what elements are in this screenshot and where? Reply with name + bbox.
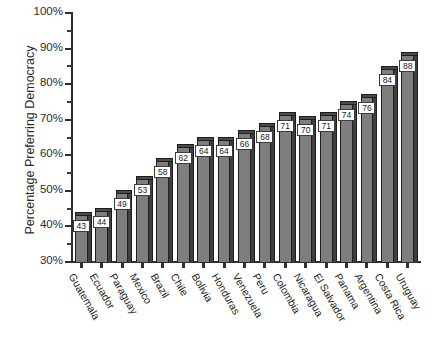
bar-top-cap <box>238 130 255 134</box>
bar-front-face <box>177 148 190 262</box>
x-tick <box>304 263 307 268</box>
bar-top-cap <box>259 123 276 127</box>
bar-value-label: 74 <box>338 109 355 121</box>
bar-value-label: 44 <box>93 216 110 228</box>
x-tick <box>284 263 287 268</box>
bar-top-cap <box>116 190 133 194</box>
bar-top-cap <box>177 144 194 148</box>
y-tick-label: 30% <box>7 254 63 266</box>
bar-side-face <box>312 116 316 262</box>
bar-side-face <box>394 66 398 262</box>
y-tick-major <box>65 12 72 14</box>
x-tick <box>80 263 83 268</box>
y-tick-major <box>65 261 72 263</box>
x-tick <box>223 263 226 268</box>
bar-top-cap <box>218 137 235 141</box>
bar <box>259 123 276 262</box>
bar-top-cap <box>136 176 153 180</box>
bar-value-label: 53 <box>134 184 151 196</box>
x-tick <box>365 263 368 268</box>
bar-value-label: 71 <box>318 120 335 132</box>
bar-front-face <box>259 127 272 262</box>
bar-top-cap <box>381 66 398 70</box>
bar <box>401 52 418 262</box>
bar-value-label: 62 <box>175 152 192 164</box>
y-tick-minor <box>67 172 72 174</box>
y-tick-major <box>65 83 72 85</box>
y-tick-major <box>65 154 72 156</box>
bar <box>361 94 378 262</box>
y-axis-tick-labels: 30%40%50%60%70%80%90%100% <box>0 0 63 337</box>
bar-front-face <box>381 70 394 262</box>
bar <box>340 101 357 262</box>
bar-top-cap <box>340 101 357 105</box>
y-tick-minor <box>67 208 72 210</box>
bar-side-face <box>333 112 337 262</box>
bar-value-label: 64 <box>216 145 233 157</box>
bar-front-face <box>279 116 292 262</box>
bar-value-label: 71 <box>277 120 294 132</box>
y-tick-minor <box>67 65 72 67</box>
bar-front-face <box>197 141 210 262</box>
y-tick-minor <box>67 101 72 103</box>
bar-value-label: 84 <box>379 74 396 86</box>
x-tick <box>325 263 328 268</box>
bar-top-cap <box>299 116 316 120</box>
x-tick <box>182 263 185 268</box>
bar-top-cap <box>279 112 296 116</box>
x-tick <box>202 263 205 268</box>
bar-front-face <box>340 105 353 262</box>
x-tick <box>263 263 266 268</box>
y-tick-major <box>65 190 72 192</box>
bar-top-cap <box>197 137 214 141</box>
bar-top-cap <box>95 208 112 212</box>
bar-value-label: 58 <box>154 166 171 178</box>
bar <box>299 116 316 262</box>
bar-top-cap <box>75 212 92 216</box>
bar-value-label: 64 <box>195 145 212 157</box>
y-tick-label: 100% <box>7 5 63 17</box>
bar-value-label: 76 <box>358 102 375 114</box>
bar-top-cap <box>361 94 378 98</box>
y-tick-major <box>65 225 72 227</box>
bar-value-label: 88 <box>399 60 416 72</box>
x-tick <box>406 263 409 268</box>
bar-front-face <box>320 116 333 262</box>
y-tick-minor <box>67 30 72 32</box>
y-tick-label: 80% <box>7 76 63 88</box>
y-tick-major <box>65 119 72 121</box>
y-tick-label: 40% <box>7 218 63 230</box>
bar-top-cap <box>156 158 173 162</box>
x-tick <box>345 263 348 268</box>
x-tick <box>243 263 246 268</box>
x-tick <box>100 263 103 268</box>
x-tick <box>141 263 144 268</box>
y-tick-minor <box>67 243 72 245</box>
y-tick-major <box>65 48 72 50</box>
y-tick-label: 70% <box>7 112 63 124</box>
bar-front-face <box>361 98 374 262</box>
bar-value-label: 70 <box>297 124 314 136</box>
x-tick <box>121 263 124 268</box>
bar-front-face <box>218 141 231 262</box>
y-tick-label: 50% <box>7 183 63 195</box>
bar-front-face <box>238 134 251 262</box>
bar-side-face <box>414 52 418 262</box>
y-tick-minor <box>67 137 72 139</box>
y-tick-label: 90% <box>7 41 63 53</box>
bar-top-cap <box>401 52 418 56</box>
bar-value-label: 43 <box>73 220 90 232</box>
bar <box>381 66 398 262</box>
bar-side-face <box>271 123 275 262</box>
x-category-label: Chile <box>169 271 191 298</box>
bar-front-face <box>299 120 312 262</box>
bar-value-label: 66 <box>236 138 253 150</box>
bar-top-cap <box>320 112 337 116</box>
bar-side-face <box>353 101 357 262</box>
x-tick <box>386 263 389 268</box>
bar-value-label: 68 <box>256 131 273 143</box>
bar-side-face <box>292 112 296 262</box>
x-tick <box>161 263 164 268</box>
bar-front-face <box>401 56 414 262</box>
bar-chart: Percentage Preferring Democracy 30%40%50… <box>0 0 439 337</box>
